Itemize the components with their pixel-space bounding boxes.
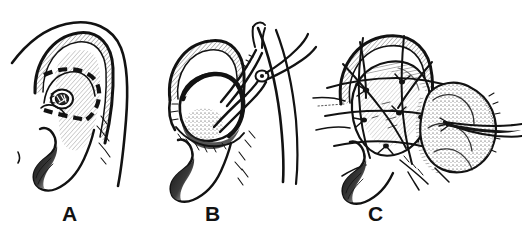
figure-container: A B C [0,0,522,236]
clamp-pivot-screw [260,74,264,78]
panel-label-b: B [205,203,220,224]
panel-label-c: C [368,203,383,224]
panel-label-a: A [62,203,77,224]
surgical-illustration [0,0,522,236]
